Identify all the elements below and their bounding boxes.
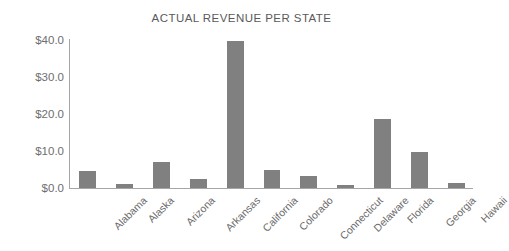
y-axis-tick-label: $0.0 [2, 182, 64, 194]
y-axis-tick-labels: $0.0$10.0$20.0$30.0$40.0 [0, 0, 64, 251]
bar [448, 183, 465, 188]
bar [116, 184, 133, 188]
y-axis-tick-label: $40.0 [2, 34, 64, 46]
x-axis-line [69, 188, 473, 189]
bar [190, 179, 207, 188]
y-axis-tick-label: $10.0 [2, 145, 64, 157]
x-axis-tick-label: Hawaii [478, 194, 509, 225]
plot-area [69, 40, 475, 188]
bar [411, 152, 428, 188]
x-axis-tick-label: Alabama [112, 194, 150, 232]
x-axis-tick-label: Alaska [146, 194, 177, 225]
x-axis-tick-label: Colorado [296, 194, 335, 233]
x-axis-tick-label: Arizona [184, 194, 218, 228]
x-axis-tick-label: Arkansas [223, 194, 262, 233]
x-axis-tick-label: Florida [404, 194, 435, 225]
chart-title: ACTUAL REVENUE PER STATE [0, 12, 483, 24]
x-axis-tick-labels: AlabamaAlaskaArizonaArkansasCaliforniaCo… [69, 190, 475, 251]
bar [264, 170, 281, 188]
bar [153, 162, 170, 188]
bar [79, 171, 96, 188]
x-axis-tick-label: Georgia [443, 194, 478, 229]
y-axis-tick-label: $30.0 [2, 71, 64, 83]
bar [337, 185, 354, 188]
bar [374, 119, 391, 188]
x-axis-tick-label: California [260, 194, 300, 234]
y-axis-tick-label: $20.0 [2, 108, 64, 120]
bar [300, 176, 317, 188]
bar [227, 41, 244, 188]
